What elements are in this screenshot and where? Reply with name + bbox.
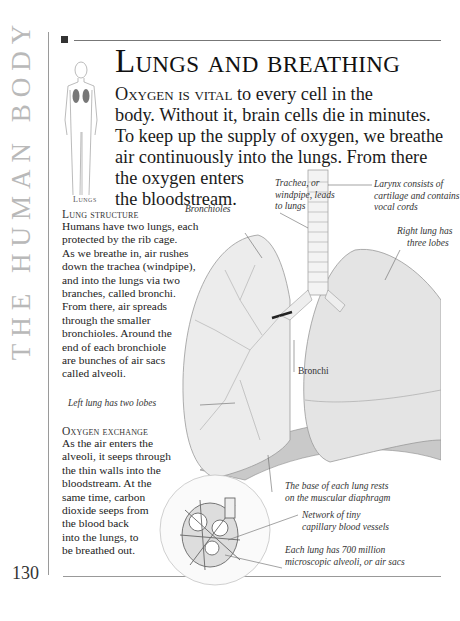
caption-diaphragm: The base of each lung rests on the muscu…	[285, 481, 390, 504]
body-line: end of each bronchiole	[62, 341, 222, 354]
body-line: bloodstream. At the	[62, 477, 182, 490]
body-line: the thin walls into the	[62, 464, 182, 477]
body-line: down the trachea (windpipe),	[62, 260, 222, 273]
caption-right-lung: Right lung has three lobes	[397, 226, 452, 249]
section-oxygen-exchange: Oxygen exchange As the air enters the al…	[62, 425, 182, 558]
section-heading: Oxygen exchange	[62, 425, 182, 437]
body-line: protected by the rib cage.	[62, 233, 222, 246]
body-line: As the air enters the	[62, 437, 182, 450]
body-line: and into the lungs via two	[62, 274, 222, 287]
caption-bronchi: Bronchi	[298, 366, 329, 378]
body-line: alveoli, it seeps through	[62, 450, 182, 463]
section-lung-structure: Lung structure Humans have two lungs, ea…	[62, 208, 222, 381]
caption-bronchioles: Bronchioles	[185, 204, 231, 216]
caption-alveoli: Each lung has 700 million microscopic al…	[285, 545, 405, 568]
body-line: into the lungs, to	[62, 531, 182, 544]
body-line: be breathed out.	[62, 544, 182, 557]
caption-trachea: Trachea, or windpipe, leads to lungs	[275, 178, 335, 213]
body-line: Humans have two lungs, each	[62, 220, 222, 233]
body-line: dioxide seeps from	[62, 504, 182, 517]
caption-larynx: Larynx consists of cartilage and contain…	[374, 179, 460, 214]
body-line: are bunches of air sacs	[62, 354, 222, 367]
body-line: bronchioles. Around the	[62, 327, 222, 340]
body-line: As we breathe in, air rushes	[62, 247, 222, 260]
body-line: the blood back	[62, 517, 182, 530]
caption-left-lung: Left lung has two lobes	[68, 398, 156, 410]
caption-capillaries: Network of tiny capillary blood vessels	[302, 510, 389, 533]
body-line: From there, air spreads	[62, 300, 222, 313]
body-line: through the smaller	[62, 314, 222, 327]
body-line: same time, carbon	[62, 491, 182, 504]
body-line: called alveoli.	[62, 367, 222, 380]
body-line: branches, called bronchi.	[62, 287, 222, 300]
